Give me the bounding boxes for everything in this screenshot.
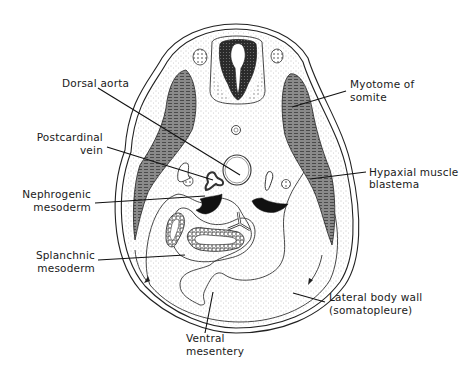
label-ventral-mesentery-2: mesentery (186, 345, 244, 357)
label-splanchnic-mesoderm-2: mesoderm (37, 262, 95, 274)
label-postcardinal-vein: Postcardinal (37, 131, 103, 143)
label-myotome-of-somite: Myotome of (350, 78, 414, 90)
label-nephrogenic-mesoderm: Nephrogenic (22, 188, 91, 200)
label-nephrogenic-mesoderm-2: mesoderm (33, 201, 91, 213)
label-hypaxial-muscle-blastema: Hypaxial muscle (369, 166, 459, 178)
dorsal-aorta (223, 155, 251, 185)
ganglion-left (193, 49, 207, 65)
label-lateral-body-wall: Lateral body wall (329, 291, 422, 303)
label-myotome-of-somite-2: somite (350, 91, 387, 103)
notochord (232, 126, 241, 135)
label-splanchnic-mesoderm: Splanchnic (36, 249, 95, 261)
label-ventral-mesentery: Ventral (186, 332, 225, 344)
mesonephric-right (282, 180, 291, 189)
label-dorsal-aorta: Dorsal aorta (62, 77, 129, 89)
ganglion-right (271, 49, 283, 63)
label-postcardinal-vein-2: vein (80, 144, 103, 156)
label-hypaxial-muscle-blastema-2: blastema (369, 178, 419, 190)
label-lateral-body-wall-2: (somatopleure) (329, 304, 412, 316)
embryo-cross-section-diagram: Dorsal aorta Postcardinal vein Nephrogen… (0, 0, 471, 372)
